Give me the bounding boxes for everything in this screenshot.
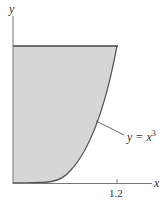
leader-line [96, 121, 124, 135]
curve-label-text: y = x [127, 130, 152, 144]
curve-label-exponent: 3 [152, 129, 156, 138]
diagram-canvas [0, 0, 168, 204]
x-tick-label: 1.2 [109, 188, 123, 199]
curve-label: y = x3 [127, 130, 156, 143]
x-axis-label: x [154, 177, 159, 189]
y-axis-label: y [9, 3, 14, 15]
shaded-region [13, 46, 117, 183]
